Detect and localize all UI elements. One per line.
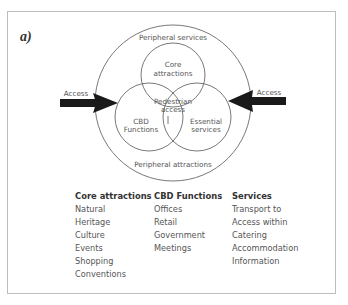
legend-item: Accommodation xyxy=(232,242,298,255)
legend-item: Information xyxy=(232,255,298,268)
legend-item: Culture xyxy=(75,229,152,242)
legend-item: Retail xyxy=(154,216,222,229)
legend-cbd-functions: CBD Functions Offices Retail Government … xyxy=(154,190,222,255)
core-label-1: Core xyxy=(165,60,182,69)
legend-item: Shopping xyxy=(75,255,152,268)
legend-item: Government xyxy=(154,229,222,242)
legend-core-attractions: Core attractions Natural Heritage Cultur… xyxy=(75,190,152,281)
legend-item: Catering xyxy=(232,229,298,242)
legend-title: Core attractions xyxy=(75,190,152,203)
legend-item: Transport to xyxy=(232,203,298,216)
legend-services: Services Transport to Access within Cate… xyxy=(232,190,298,268)
peripheral-attractions-label: Peripheral attractions xyxy=(134,160,212,169)
legend-item: Meetings xyxy=(154,242,222,255)
legend-title: Services xyxy=(232,190,298,203)
legend-item: Offices xyxy=(154,203,222,216)
legend-item: Conventions xyxy=(75,268,152,281)
legend-title: CBD Functions xyxy=(154,190,222,203)
core-label-2: attractions xyxy=(154,69,193,78)
right-access-label: Access xyxy=(257,88,282,97)
peripheral-services-label: Peripheral services xyxy=(139,33,207,42)
legend-item: Natural xyxy=(75,203,152,216)
legend-item: Access within xyxy=(232,216,298,229)
essential-label-2: services xyxy=(191,125,221,134)
pedestrian-label-2: access xyxy=(161,105,185,114)
cbd-label-2: Functions xyxy=(124,125,159,134)
legend-item: Heritage xyxy=(75,216,152,229)
legend-item: Events xyxy=(75,242,152,255)
left-access-label: Access xyxy=(64,89,89,98)
